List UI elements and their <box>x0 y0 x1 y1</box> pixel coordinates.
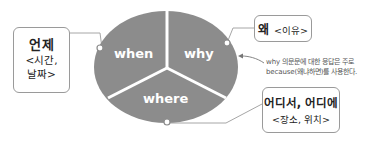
when-sub-line2: 날짜> <box>14 67 69 81</box>
why-note-line1: why 의문문에 대한 응답은 주로 <box>266 57 357 67</box>
where-title: 어디서, 어디에 <box>263 96 339 111</box>
connector-dot-why <box>224 40 230 46</box>
connector-dot-where <box>164 119 170 125</box>
arrow-head-icon <box>238 54 243 59</box>
note-arrow <box>242 56 264 63</box>
why-note-line2: because(왜냐하면)를 사용한다. <box>266 67 357 77</box>
segment-label-why: why <box>184 46 214 61</box>
why-note: why 의문문에 대한 응답은 주로 because(왜냐하면)를 사용한다. <box>266 57 357 77</box>
segment-label-when: when <box>114 46 153 61</box>
why-title: 왜 <box>258 23 269 37</box>
when-box: 언제 <시간, 날짜> <box>13 27 70 93</box>
why-box: 왜 <이유> <box>254 15 312 42</box>
when-sub-line1: <시간, <box>14 53 69 67</box>
connector-why <box>227 28 254 43</box>
why-sub: <이유> <box>274 25 308 36</box>
when-title: 언제 <box>14 37 69 53</box>
connector-dot-when <box>97 45 103 51</box>
where-sub: <장소, 위치> <box>263 113 339 127</box>
segment-label-where: where <box>143 91 188 106</box>
where-box: 어디서, 어디에 <장소, 위치> <box>262 87 340 133</box>
